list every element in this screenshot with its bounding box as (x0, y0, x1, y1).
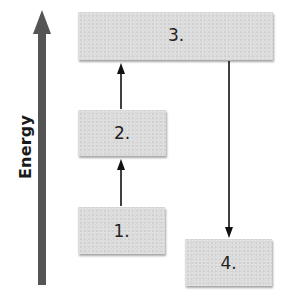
box-4-label: 4. (220, 253, 236, 273)
box-1-label: 1. (113, 221, 129, 241)
arrow-3-to-4-icon (225, 61, 233, 238)
box-2-label: 2. (114, 123, 130, 143)
energy-axis-label: Energy (16, 115, 35, 179)
energy-level-box-1: 1. (78, 207, 165, 254)
energy-axis-shaft (38, 30, 46, 285)
energy-level-diagram: Energy 3. 2. 1. 4. (0, 0, 291, 301)
energy-level-box-4: 4. (185, 239, 272, 286)
arrow-1-to-2-icon (117, 159, 125, 206)
energy-level-box-2: 2. (78, 110, 166, 156)
arrow-2-to-3-icon (117, 63, 125, 109)
box-3-label: 3. (168, 25, 184, 45)
energy-level-box-3: 3. (78, 12, 273, 60)
